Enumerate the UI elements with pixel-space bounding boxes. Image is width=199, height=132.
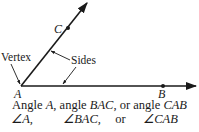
point-c [66,26,70,30]
label-c: C [54,22,63,36]
caption-var-cab: CAB [163,98,187,112]
angle-notation-cab: ∠CAB [143,112,178,126]
caption-text: , or angle [113,98,163,112]
caption-var-bac: BAC [90,98,114,112]
caption-text: Angle [12,98,46,112]
caption-line-2: ∠A,∠BAC,or∠CAB [0,113,199,126]
caption-line-1: Angle A, angle BAC, or angle CAB [0,99,199,112]
angle-notation-bac: ∠BAC, [63,113,115,126]
caption-or: or [115,113,143,126]
sides-label: Sides [71,54,96,66]
vertex-label: Vertex [1,51,31,63]
caption-text: , angle [53,98,89,112]
sides-pointer-lower [63,67,76,84]
sides-pointer-upper [51,51,70,60]
angle-notation-a: ∠A, [11,113,63,126]
vertex-pointer [11,64,20,84]
ray-ac [21,3,87,86]
